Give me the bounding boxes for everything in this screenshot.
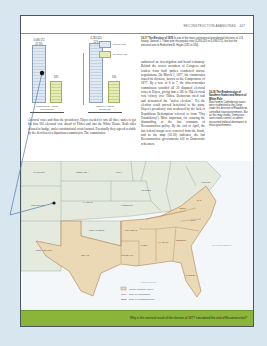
label-wyoming: WYOMING bbox=[33, 171, 45, 174]
legend-military-district: Military Districts (1867) bbox=[129, 288, 154, 291]
label-florida: FLORIDA bbox=[186, 274, 197, 277]
tilden-electoral-bar bbox=[108, 81, 120, 103]
textbook-page: RECONSTRUCTION ABANDONED 447 4,036,57247… bbox=[20, 15, 254, 327]
hayes-name: Rutherford B. Hayes(Republican) bbox=[30, 105, 64, 113]
legend-reestablishment: Date of reestablishment bbox=[129, 298, 155, 301]
page-number: 447 bbox=[239, 24, 245, 28]
hayes-electoral-label: 185 bbox=[46, 76, 66, 80]
electoral-swatch bbox=[99, 51, 111, 58]
question-prompt-text: Why is the eventual result of the electi… bbox=[130, 316, 247, 320]
tilden-party-text: (Democrat) bbox=[88, 108, 122, 111]
label-atlantic: ATLANTIC OCEAN bbox=[211, 244, 232, 247]
label-louisiana: LOUISIANA bbox=[121, 254, 134, 257]
label-tennessee: TENN. bbox=[179, 207, 187, 210]
tilden-name: Samuel J. Tilden(Democrat) bbox=[88, 105, 122, 113]
body-text-right: authorized an investigation and heard te… bbox=[141, 60, 205, 146]
chart-divider bbox=[83, 53, 84, 105]
running-head: RECONSTRUCTION ABANDONED 447 bbox=[21, 16, 253, 34]
question-prompt-bar[interactable]: Why is the eventual result of the electi… bbox=[21, 310, 253, 326]
label-gulf: Gulf of Mexico bbox=[141, 281, 157, 284]
body-text-left: electoral votes and thus the presidency.… bbox=[28, 118, 136, 135]
label-arkansas: ARKANSAS bbox=[124, 229, 137, 232]
sidecap-text: Most former Confederate states were read… bbox=[209, 101, 249, 127]
label-mississippi: MISS. bbox=[141, 244, 148, 247]
label-missouri: MISSOURI bbox=[121, 204, 133, 207]
chart-legend: Popular vote Electoral vote bbox=[99, 41, 131, 61]
legend-electoral-label: Electoral vote bbox=[113, 53, 127, 56]
label-colorado: COLORADO bbox=[31, 204, 45, 207]
figure-caption-16-18: 16.18 The Readmission of Southern States… bbox=[209, 91, 249, 127]
figure-caption-16-17: 16.17 The Election of 1876 In one of the… bbox=[141, 37, 247, 47]
popular-swatch bbox=[99, 41, 111, 48]
legend-readmission-sample: 1868 bbox=[121, 293, 127, 296]
legend-military-district-swatch bbox=[121, 287, 126, 290]
reconstruction-map: WYOMING NEBRASKA IOWA ILLINOIS COLORADO … bbox=[21, 161, 254, 313]
label-north-carolina: N.C. bbox=[197, 199, 202, 202]
hayes-electoral-bar bbox=[50, 81, 62, 103]
running-head-title: RECONSTRUCTION ABANDONED bbox=[183, 24, 236, 28]
label-new-mexico: NEW MEXICO bbox=[36, 249, 52, 252]
hayes-party-text: (Republican) bbox=[30, 108, 64, 111]
tilden-electoral-label: 184 bbox=[104, 76, 124, 80]
legend-popular: Popular vote bbox=[99, 41, 131, 48]
label-nebraska: NEBRASKA bbox=[76, 171, 89, 174]
label-indian-territory: INDIAN TERR. bbox=[89, 229, 105, 232]
legend-reestablishment-sample: 1876 bbox=[121, 298, 127, 301]
label-texas: TEXAS bbox=[81, 254, 89, 257]
label-alabama: ALABAMA bbox=[158, 241, 170, 244]
label-kansas: KANSAS bbox=[83, 201, 93, 204]
map-svg: WYOMING NEBRASKA IOWA ILLINOIS COLORADO … bbox=[21, 161, 254, 313]
legend-electoral: Electoral vote bbox=[99, 51, 131, 58]
label-virginia: VIRGINIA bbox=[201, 181, 212, 184]
label-illinois: ILLINOIS bbox=[141, 189, 151, 192]
legend-popular-label: Popular vote bbox=[113, 43, 126, 46]
election-bar-chart: 4,036,57247.9% 185 Rutherford B. Hayes(R… bbox=[26, 37, 136, 115]
label-south-carolina: S.C. bbox=[191, 219, 196, 222]
label-iowa: IOWA bbox=[116, 171, 123, 174]
label-georgia: GEORGIA bbox=[176, 239, 188, 242]
hayes-popular-bar bbox=[32, 45, 46, 103]
legend-readmission: Date of readmission bbox=[129, 293, 151, 296]
sidecap-title: 16.18 The Readmission of Southern States… bbox=[209, 91, 249, 101]
